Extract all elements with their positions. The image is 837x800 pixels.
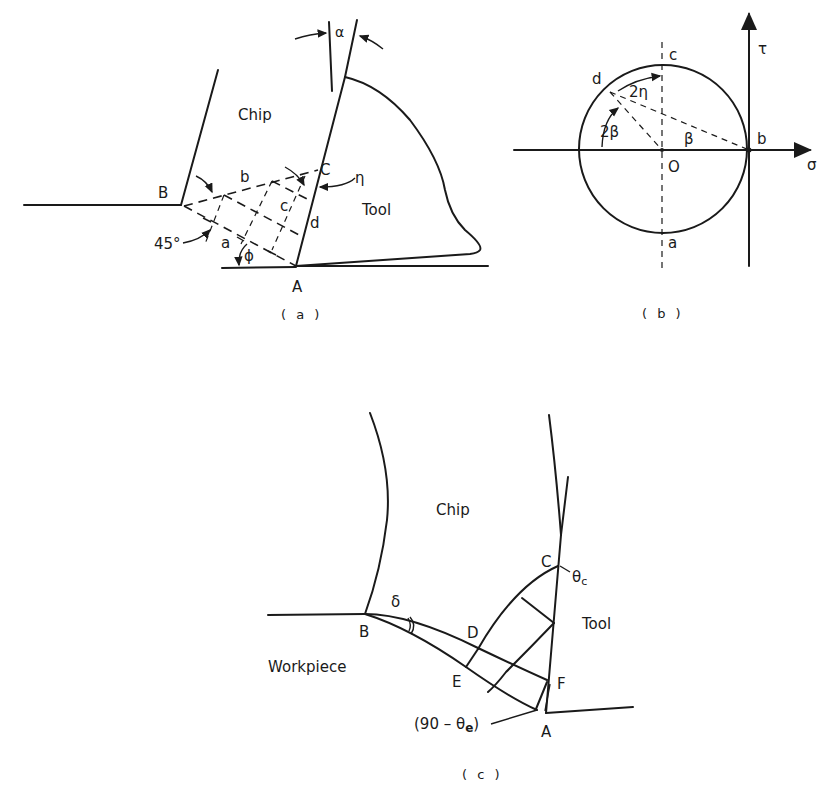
angle-arrow-b xyxy=(196,176,212,192)
theta-c-label: θc xyxy=(572,568,587,588)
alpha-arrow-left xyxy=(295,33,326,39)
line-c-label: c xyxy=(280,197,288,215)
point-d-label: D xyxy=(467,624,479,642)
eta-arrow-left xyxy=(285,167,304,185)
rake-face-extension-line xyxy=(345,20,357,77)
tool-flank-line xyxy=(546,707,633,713)
point-b-label: B xyxy=(359,623,369,641)
point-b-label: B xyxy=(158,184,168,202)
point-d-label: d xyxy=(592,70,602,88)
tool-face-upper-line xyxy=(561,477,568,535)
point-o-dot xyxy=(660,148,664,152)
caption-c: ( c ) xyxy=(462,767,503,782)
theta-e-leader xyxy=(491,710,537,724)
origin-label: O xyxy=(668,158,680,176)
theta-c-leader xyxy=(560,566,570,572)
tick-mark xyxy=(268,251,276,255)
eta-label: η xyxy=(355,169,365,187)
point-f-label: F xyxy=(557,675,566,693)
chip-label: Chip xyxy=(238,106,272,124)
slip-line-cross-3 xyxy=(272,176,305,250)
tick-mark xyxy=(203,218,211,222)
panel-b: c d b a O 2η 2β β σ τ ( b ) xyxy=(514,14,817,321)
beta-label: β xyxy=(684,130,694,148)
slip-line-inner-1 xyxy=(522,598,554,623)
point-a-label: A xyxy=(292,278,303,296)
eta-arrow-right xyxy=(320,178,355,187)
tool-label: Tool xyxy=(361,201,391,219)
slip-line-inner-3 xyxy=(536,682,547,709)
slip-line-bea xyxy=(365,614,537,710)
slip-line-inner-1 xyxy=(224,195,303,237)
chip-label: Chip xyxy=(436,501,470,519)
point-c-label: C xyxy=(320,161,330,179)
tool-label: Tool xyxy=(581,615,611,633)
slip-line-bc-dashed xyxy=(184,170,318,206)
two-beta-label: 2β xyxy=(600,123,619,141)
vertical-reference-line xyxy=(329,22,332,91)
sigma-label: σ xyxy=(807,156,817,174)
point-a-label: A xyxy=(541,723,552,741)
delta-label: δ xyxy=(391,593,400,611)
angle-45-label: 45° xyxy=(154,235,181,253)
point-e-label: E xyxy=(452,673,461,691)
alpha-arrow-right xyxy=(360,36,383,49)
chip-left-boundary xyxy=(365,413,388,614)
caption-a: ( a ) xyxy=(281,307,322,322)
tau-label: τ xyxy=(758,40,767,58)
machined-surface-line xyxy=(222,267,296,268)
chip-free-surface-line xyxy=(181,70,218,205)
chip-right-boundary xyxy=(549,415,561,535)
slip-line-cd xyxy=(478,566,558,649)
alpha-label: α xyxy=(335,24,344,40)
line-b-label: b xyxy=(240,168,250,186)
caption-b: ( b ) xyxy=(642,306,684,321)
slip-line-de xyxy=(466,649,478,667)
point-c-label: c xyxy=(669,46,677,64)
panel-c: Chip Tool Workpiece B C D E F A δ θc (90… xyxy=(268,413,633,782)
point-c-label: C xyxy=(541,553,551,571)
phi-label: ϕ xyxy=(244,247,254,265)
slip-line-inner-2 xyxy=(272,181,311,201)
point-b-label: b xyxy=(757,130,767,148)
diagram-canvas: α 45° η ϕ Chip Tool B A C b c d a ( a ) xyxy=(0,0,837,800)
workpiece-label: Workpiece xyxy=(268,658,346,676)
point-a-label: a xyxy=(668,234,677,252)
two-eta-label: 2η xyxy=(629,83,648,101)
line-a-label: a xyxy=(221,234,230,252)
line-d-label: d xyxy=(310,214,320,232)
panel-a: α 45° η ϕ Chip Tool B A C b c d a ( a ) xyxy=(24,20,488,322)
slip-line-cross-2 xyxy=(241,181,272,244)
workpiece-surface-line xyxy=(268,614,365,615)
point-b-dot xyxy=(747,148,752,153)
theta-e-label: (90 – θe) xyxy=(414,715,479,735)
